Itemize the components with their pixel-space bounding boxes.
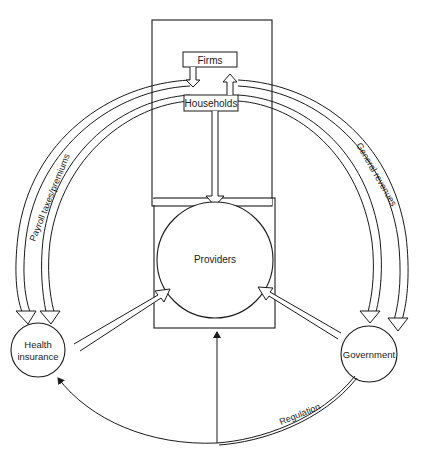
households-label: Households	[185, 98, 238, 109]
payroll-arrowhead-1	[16, 311, 36, 324]
firms-label: Firms	[198, 55, 223, 66]
insurance-to-providers-arrow	[74, 289, 170, 351]
firms-to-households-arrow	[186, 67, 200, 87]
revenue-arrowhead-2	[388, 318, 408, 331]
government-to-providers-arrow	[258, 287, 341, 339]
regulation-band-inner	[219, 378, 357, 445]
households-to-firms-arrow	[223, 74, 237, 95]
payroll-flow-label: Payroll taxes/premiums	[28, 152, 72, 243]
payroll-arrowhead-2	[40, 311, 60, 324]
health-insurance-label-line2: insurance	[17, 351, 58, 362]
revenue-arrowhead-1	[360, 311, 380, 323]
health-system-diagram: Firms Households Providers Health insura…	[0, 0, 421, 462]
health-insurance-label-line1: Health	[24, 339, 51, 350]
health-insurance-node	[11, 323, 65, 377]
providers-label: Providers	[194, 254, 236, 265]
government-label: Government	[343, 349, 396, 360]
households-to-providers-arrow	[206, 111, 224, 206]
